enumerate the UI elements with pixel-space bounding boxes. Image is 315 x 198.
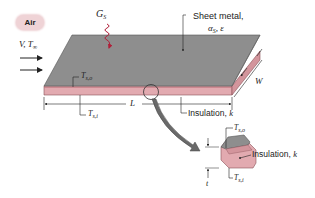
sheet-metal-plate: [44, 35, 260, 86]
detail-ts-outer-label: Ts,o: [234, 124, 245, 133]
sheet-metal-label: Sheet metal,: [193, 12, 244, 21]
irradiation-label: GS: [96, 9, 106, 20]
length-label: L: [130, 99, 135, 108]
ts-inner-label: Ts,i: [88, 110, 98, 119]
detail-thickness-label: t: [206, 180, 208, 188]
diagram-graphics: [0, 0, 315, 198]
ts-outer-label: Ts,o: [81, 72, 92, 81]
width-label: W: [255, 77, 263, 86]
air-label: Air: [16, 18, 44, 27]
detail-callout-arrow: [152, 99, 200, 151]
sheet-metal-properties: αS, ε: [208, 24, 224, 34]
air-velocity-temp-label: V, T∞: [19, 40, 37, 50]
ts-inner-leader: [80, 95, 86, 115]
insulation-leader: [181, 97, 187, 113]
detail-insulation-label: Insulation, k: [252, 150, 297, 159]
detail-ts-inner-label: Ts,i: [234, 174, 244, 183]
air-label-cloud: Air: [16, 15, 44, 30]
air-flow-arrows: [20, 58, 42, 70]
sheet-metal-insulation-diagram: Air V, T∞ GS Sheet metal, αS, ε Ts,o Ts,…: [0, 0, 315, 198]
detail-block: [205, 128, 256, 178]
insulation-label: Insulation, k: [188, 109, 233, 118]
